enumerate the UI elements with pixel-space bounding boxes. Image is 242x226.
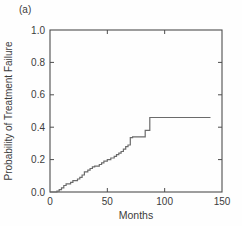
y-tick-label: 0.4	[31, 122, 45, 133]
y-tick-label: 1.0	[31, 25, 45, 36]
treatment-failure-curve	[50, 118, 211, 193]
x-tick-label: 150	[214, 196, 231, 207]
plot-border	[50, 30, 222, 192]
step-chart: 0501001500.00.20.40.60.81.0 Months Proba…	[0, 0, 242, 226]
y-tick-label: 0.2	[31, 154, 45, 165]
x-axis-label: Months	[119, 209, 153, 221]
figure-panel-a: (a) 0501001500.00.20.40.60.81.0 Months P…	[0, 0, 242, 226]
x-tick-label: 0	[47, 196, 53, 207]
y-tick-label: 0.0	[31, 187, 45, 198]
y-tick-label: 0.6	[31, 89, 45, 100]
panel-label: (a)	[19, 4, 31, 15]
x-tick-label: 100	[156, 196, 173, 207]
y-axis-label: Probability of Treatment Failure	[3, 41, 14, 180]
y-tick-label: 0.8	[31, 57, 45, 68]
x-tick-label: 50	[102, 196, 114, 207]
